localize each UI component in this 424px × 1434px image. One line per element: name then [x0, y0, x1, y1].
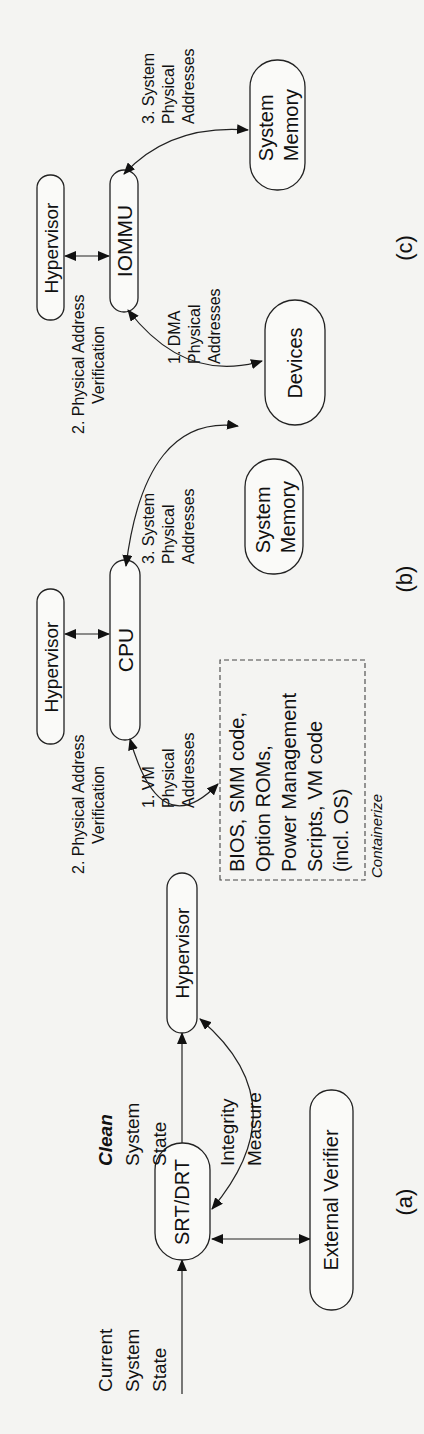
- devices-label: Devices: [284, 327, 306, 398]
- caption-b: (b): [392, 566, 417, 593]
- container-contents: BIOS, SMM code, Option ROMs, Power Manag…: [226, 687, 352, 872]
- caption-a: (a): [392, 1189, 417, 1216]
- clean-state-label: Clean System State: [95, 1097, 170, 1166]
- system-address-label-b: 3. System Physical Addresses: [140, 488, 197, 564]
- hypervisor-label-c: Hypervisor: [41, 202, 62, 293]
- vm-address-label: 1. VM Physical Addresses: [140, 732, 197, 808]
- system-address-label-c: 3. System Physical Addresses: [140, 48, 197, 124]
- panel-a: Current System State SRT/DRT Clean Syste…: [95, 873, 417, 1394]
- external-verifier-label: External Verifier: [320, 1129, 342, 1271]
- containerize-label: Containerize: [368, 794, 385, 878]
- hypervisor-label-a: Hypervisor: [172, 907, 193, 998]
- integrity-measure-label: Integrity Measure: [217, 1092, 265, 1166]
- panel-b: Hypervisor 2. Physical Address Verificat…: [37, 425, 417, 880]
- rotated-figure: Current System State SRT/DRT Clean Syste…: [0, 0, 424, 1434]
- caption-c: (c): [392, 235, 417, 261]
- verification-label-c: 2. Physical Address Verification: [70, 290, 107, 434]
- iommu-label: IOMMU: [113, 205, 136, 277]
- srt-drt-label: SRT/DRT: [171, 1159, 193, 1245]
- verification-label-b: 2. Physical Address Verification: [70, 730, 107, 874]
- cpu-label: CPU: [114, 628, 137, 672]
- current-state-label: Current System State: [95, 1323, 170, 1392]
- hypervisor-label-b: Hypervisor: [41, 621, 62, 712]
- system-address-arrow-c: [124, 129, 248, 174]
- panel-c: Hypervisor 2. Physical Address Verificat…: [37, 48, 417, 434]
